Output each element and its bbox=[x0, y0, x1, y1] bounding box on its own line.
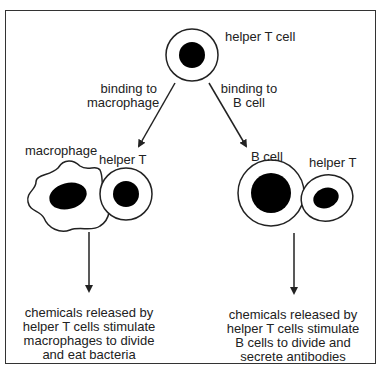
macrophage-outcome-text: chemicals released by helper T cells sti… bbox=[14, 306, 164, 362]
helper-t-right-label: helper T bbox=[309, 156, 356, 170]
b-cell-label: B cell bbox=[251, 150, 283, 164]
macrophage-cell bbox=[28, 161, 110, 231]
top-helper-t-cell bbox=[166, 29, 218, 81]
outcome-right-line: B cells to divide and bbox=[218, 336, 368, 350]
helper-t-left-label: helper T bbox=[99, 153, 146, 167]
binding-bcell-label: binding to B cell bbox=[218, 82, 280, 110]
outcome-left-line: and eat bacteria bbox=[14, 348, 164, 362]
outcome-right-line: secrete antibodies bbox=[218, 350, 368, 364]
right-helper-t-cell bbox=[296, 169, 358, 227]
binding-macrophage-line1: binding to bbox=[87, 82, 157, 96]
macrophage-label: macrophage bbox=[25, 144, 97, 158]
outcome-left-line: helper T cells stimulate bbox=[14, 320, 164, 334]
outcome-left-line: macrophages to divide bbox=[14, 334, 164, 348]
top-cell-label: helper T cell bbox=[225, 30, 295, 44]
binding-bcell-line2: B cell bbox=[218, 96, 280, 110]
left-helper-t-cell bbox=[100, 168, 152, 220]
binding-macrophage-label: binding to macrophage bbox=[87, 82, 157, 110]
outcome-left-line: chemicals released by bbox=[14, 306, 164, 320]
b-cell bbox=[238, 160, 304, 226]
outcome-right-line: helper T cells stimulate bbox=[218, 322, 368, 336]
binding-bcell-line1: binding to bbox=[218, 82, 280, 96]
outcome-right-line: chemicals released by bbox=[218, 308, 368, 322]
bcell-outcome-text: chemicals released by helper T cells sti… bbox=[218, 308, 368, 364]
binding-macrophage-line2: macrophage bbox=[87, 96, 157, 110]
